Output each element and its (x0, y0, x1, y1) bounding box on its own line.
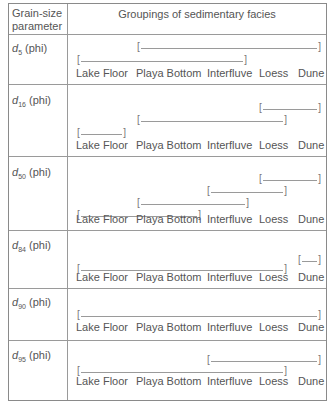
label-playa-bottom: Playa Bottom (136, 213, 201, 225)
label-lake-floor: Lake Floor (76, 375, 128, 387)
label-interfluve: Interfluve (207, 321, 252, 333)
label-playa-bottom: Playa Bottom (136, 375, 201, 387)
row-divider (9, 230, 326, 231)
label-dune: Dune (298, 213, 324, 225)
label-loess: Loess (259, 375, 288, 387)
grouping-bar: [] (77, 312, 321, 321)
header-line-2: parameter (12, 20, 62, 33)
label-interfluve: Interfluve (207, 139, 252, 151)
row-divider (9, 84, 326, 85)
grouping-bar: [] (259, 176, 321, 185)
label-playa-bottom: Playa Bottom (136, 321, 201, 333)
grouping-bar: [] (207, 188, 287, 197)
param-d90: d90 (phi) (12, 296, 51, 310)
label-interfluve: Interfluve (207, 67, 252, 79)
param-d50: d50 (phi) (12, 166, 51, 180)
label-lake-floor: Lake Floor (76, 213, 128, 225)
param-d84: d84 (phi) (12, 239, 51, 253)
label-dune: Dune (298, 139, 324, 151)
row-divider (9, 340, 326, 341)
facies-labels-row: Lake Floor Playa Bottom Interfluve Loess… (9, 213, 326, 227)
param-d95: d95 (phi) (12, 349, 51, 363)
label-loess: Loess (259, 271, 288, 283)
label-playa-bottom: Playa Bottom (136, 271, 201, 283)
grouping-bar: [] (77, 57, 247, 66)
facies-labels-row: Lake Floor Playa Bottom Interfluve Loess… (9, 67, 326, 81)
grouping-bar: [] (137, 44, 321, 53)
facies-labels-row: Lake Floor Playa Bottom Interfluve Loess… (9, 139, 326, 153)
label-lake-floor: Lake Floor (76, 139, 128, 151)
label-playa-bottom: Playa Bottom (136, 139, 201, 151)
label-lake-floor: Lake Floor (76, 67, 128, 79)
grouping-bar: [] (137, 117, 287, 126)
label-dune: Dune (298, 375, 324, 387)
facies-labels-row: Lake Floor Playa Bottom Interfluve Loess… (9, 375, 326, 389)
grouping-bar: [] (298, 257, 321, 266)
param-d16: d16 (phi) (12, 94, 51, 108)
label-interfluve: Interfluve (207, 213, 252, 225)
row-divider (9, 288, 326, 289)
facies-grouping-table: Grain-size parameter Groupings of sedime… (8, 3, 327, 401)
label-interfluve: Interfluve (207, 271, 252, 283)
grouping-bar: [] (207, 357, 321, 366)
label-dune: Dune (298, 271, 324, 283)
grouping-bar: [] (77, 130, 126, 139)
param-d5: d5 (phi) (12, 42, 47, 56)
label-loess: Loess (259, 321, 288, 333)
facies-labels-row: Lake Floor Playa Bottom Interfluve Loess… (9, 321, 326, 335)
label-lake-floor: Lake Floor (76, 321, 128, 333)
grouping-bar: [] (259, 105, 321, 114)
grouping-bar: [] (137, 200, 249, 209)
row-divider (9, 156, 326, 157)
label-loess: Loess (259, 67, 288, 79)
label-dune: Dune (298, 67, 324, 79)
header-line-1: Grain-size (12, 7, 62, 20)
label-lake-floor: Lake Floor (76, 271, 128, 283)
label-loess: Loess (259, 139, 288, 151)
label-loess: Loess (259, 213, 288, 225)
label-playa-bottom: Playa Bottom (136, 67, 201, 79)
label-interfluve: Interfluve (207, 375, 252, 387)
header-divider (9, 34, 326, 35)
header-groupings: Groupings of sedimentary facies (68, 8, 326, 20)
label-dune: Dune (298, 321, 324, 333)
header-grain-size-parameter: Grain-size parameter (12, 7, 62, 33)
facies-labels-row: Lake Floor Playa Bottom Interfluve Loess… (9, 271, 326, 285)
